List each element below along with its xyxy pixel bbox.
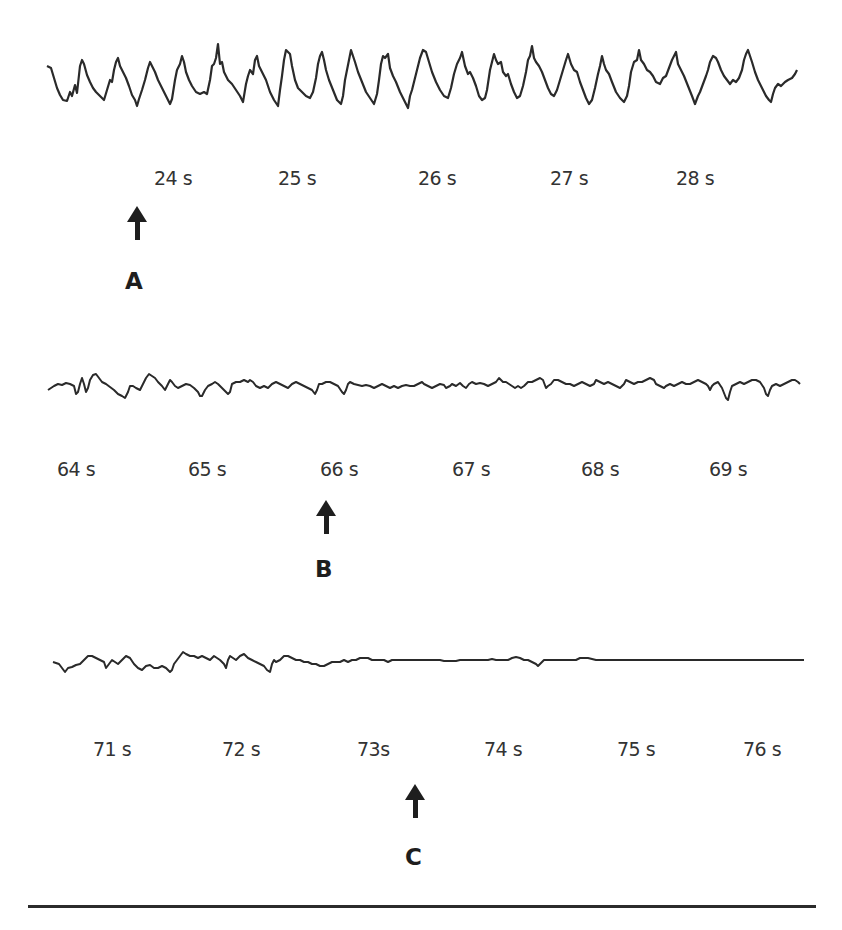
panel-c: 71 s 72 s 73s 74 s 75 s 76 s C: [0, 0, 842, 900]
marker-c-label: C: [405, 844, 422, 870]
tick-label: 74 s: [484, 738, 522, 760]
tick-label: 75 s: [617, 738, 655, 760]
tick-label: 72 s: [222, 738, 260, 760]
divider-rule: [28, 905, 816, 908]
tick-label: 76 s: [743, 738, 781, 760]
tick-label: 71 s: [93, 738, 131, 760]
tick-label: 73s: [357, 738, 390, 760]
trace-c: [0, 0, 842, 700]
arrow-up-icon: [400, 784, 430, 818]
